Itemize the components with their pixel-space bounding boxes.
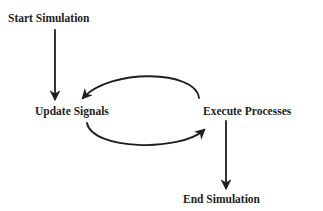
node-end-simulation: End Simulation	[183, 193, 261, 205]
node-execute-processes: Execute Processes	[203, 105, 292, 117]
edge-update-to-execute	[87, 123, 204, 145]
node-start-simulation: Start Simulation	[8, 12, 90, 24]
edge-execute-to-update	[83, 76, 199, 98]
node-update-signals: Update Signals	[35, 105, 109, 118]
simulation-flow-diagram: Start Simulation Update Signals Execute …	[0, 0, 323, 211]
